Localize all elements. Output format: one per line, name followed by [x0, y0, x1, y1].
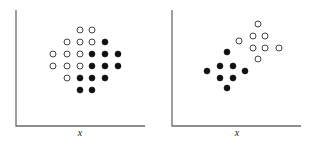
- open-data-point: [64, 63, 70, 69]
- left-x-axis-label: x: [77, 127, 83, 138]
- open-data-point: [77, 63, 83, 69]
- open-data-point: [262, 45, 268, 51]
- right-points: [204, 21, 282, 91]
- open-data-point: [250, 45, 256, 51]
- open-data-point: [77, 27, 83, 33]
- right-scatter-chart: x: [172, 10, 301, 138]
- filled-data-point: [224, 85, 230, 91]
- filled-data-point: [102, 51, 108, 57]
- left-points: [50, 27, 121, 93]
- open-data-point: [89, 27, 95, 33]
- filled-data-point: [217, 75, 223, 81]
- open-data-point: [50, 51, 56, 57]
- filled-data-point: [230, 63, 236, 69]
- open-data-point: [64, 51, 70, 57]
- open-data-point: [276, 45, 282, 51]
- open-data-point: [64, 39, 70, 45]
- filled-data-point: [77, 75, 83, 81]
- filled-data-point: [242, 68, 248, 74]
- open-data-point: [77, 51, 83, 57]
- filled-data-point: [230, 75, 236, 81]
- filled-data-point: [115, 51, 121, 57]
- filled-data-point: [217, 63, 223, 69]
- filled-data-point: [102, 75, 108, 81]
- filled-data-point: [102, 39, 108, 45]
- open-data-point: [250, 33, 256, 39]
- filled-data-point: [115, 63, 121, 69]
- filled-data-point: [89, 75, 95, 81]
- open-data-point: [89, 39, 95, 45]
- open-data-point: [255, 21, 261, 27]
- left-scatter-chart: x: [16, 10, 145, 138]
- filled-data-point: [89, 63, 95, 69]
- filled-data-point: [102, 63, 108, 69]
- open-data-point: [236, 38, 242, 44]
- filled-data-point: [77, 87, 83, 93]
- open-data-point: [262, 33, 268, 39]
- open-data-point: [64, 75, 70, 81]
- open-data-point: [77, 39, 83, 45]
- scatter-figure: x x: [0, 0, 311, 148]
- open-data-point: [255, 56, 261, 62]
- right-axes: [172, 10, 301, 126]
- right-x-axis-label: x: [234, 127, 240, 138]
- filled-data-point: [89, 87, 95, 93]
- open-data-point: [50, 63, 56, 69]
- filled-data-point: [89, 51, 95, 57]
- scatter-plots-svg: x x: [0, 0, 311, 148]
- filled-data-point: [204, 68, 210, 74]
- filled-data-point: [224, 49, 230, 55]
